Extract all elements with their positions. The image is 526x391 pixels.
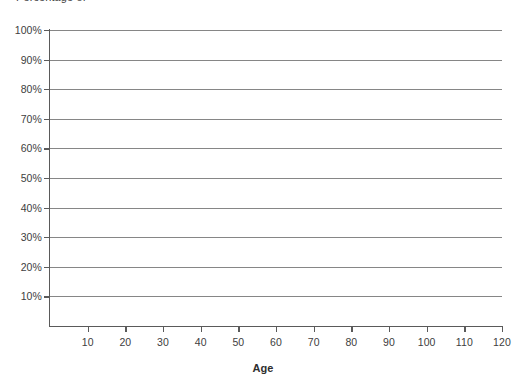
x-axis-tick-mark bbox=[276, 326, 277, 332]
x-axis-title: Age bbox=[0, 362, 526, 374]
gridline bbox=[50, 119, 502, 120]
gridline bbox=[50, 296, 502, 297]
gridline bbox=[50, 30, 502, 31]
plot-area bbox=[50, 30, 502, 326]
gridline bbox=[50, 178, 502, 179]
y-axis-tick-mark bbox=[44, 60, 49, 61]
gridline bbox=[50, 267, 502, 268]
gridline bbox=[50, 89, 502, 90]
x-axis-tick-label: 70 bbox=[294, 336, 334, 348]
x-axis-tick-mark bbox=[314, 326, 315, 332]
x-axis-tick-label: 20 bbox=[105, 336, 145, 348]
x-axis-tick-mark bbox=[125, 326, 126, 332]
x-axis-tick-mark bbox=[502, 326, 503, 332]
y-axis-tick-label: 10% bbox=[0, 290, 42, 302]
gridline bbox=[50, 237, 502, 238]
y-axis-tick-label: 70% bbox=[0, 113, 42, 125]
y-axis-tick-mark bbox=[44, 89, 49, 90]
x-axis-tick-mark bbox=[389, 326, 390, 332]
y-axis-tick-label: 80% bbox=[0, 83, 42, 95]
x-axis-tick-label: 50 bbox=[218, 336, 258, 348]
y-axis-tick-mark bbox=[44, 178, 49, 179]
x-axis-tick-label: 90 bbox=[369, 336, 409, 348]
x-axis-tick-label: 40 bbox=[181, 336, 221, 348]
y-axis-tick-mark bbox=[44, 119, 49, 120]
chart-container: Percentage of 10%20%30%40%50%60%70%80%90… bbox=[0, 0, 526, 391]
gridline bbox=[50, 60, 502, 61]
y-axis-tick-mark bbox=[44, 208, 49, 209]
x-axis-tick-label: 110 bbox=[444, 336, 484, 348]
y-axis-tick-label: 100% bbox=[0, 24, 42, 36]
gridline bbox=[50, 148, 502, 149]
x-axis-tick-mark bbox=[88, 326, 89, 332]
x-axis-tick-label: 10 bbox=[68, 336, 108, 348]
y-axis-tick-labels: 10%20%30%40%50%60%70%80%90%100% bbox=[0, 0, 42, 391]
y-axis-tick-mark bbox=[44, 30, 49, 31]
gridline bbox=[50, 208, 502, 209]
y-axis-tick-label: 40% bbox=[0, 202, 42, 214]
y-axis-tick-label: 90% bbox=[0, 54, 42, 66]
y-axis-tick-mark bbox=[44, 296, 49, 297]
x-axis-tick-label: 120 bbox=[482, 336, 522, 348]
x-axis-tick-mark bbox=[238, 326, 239, 332]
y-axis-tick-mark bbox=[44, 148, 49, 149]
y-axis-tick-mark bbox=[44, 237, 49, 238]
x-axis-tick-mark bbox=[201, 326, 202, 332]
x-axis-tick-label: 80 bbox=[331, 336, 371, 348]
y-axis-tick-label: 30% bbox=[0, 231, 42, 243]
y-axis-tick-label: 60% bbox=[0, 142, 42, 154]
x-axis-tick-mark bbox=[351, 326, 352, 332]
x-axis-tick-mark bbox=[163, 326, 164, 332]
y-axis-tick-label: 50% bbox=[0, 172, 42, 184]
y-axis-tick-mark bbox=[44, 267, 49, 268]
x-axis-tick-label: 30 bbox=[143, 336, 183, 348]
x-axis-tick-mark bbox=[464, 326, 465, 332]
x-axis-tick-label: 60 bbox=[256, 336, 296, 348]
x-axis-tick-label: 100 bbox=[407, 336, 447, 348]
x-axis-tick-mark bbox=[427, 326, 428, 332]
y-axis-line bbox=[49, 29, 50, 327]
y-axis-tick-label: 20% bbox=[0, 261, 42, 273]
